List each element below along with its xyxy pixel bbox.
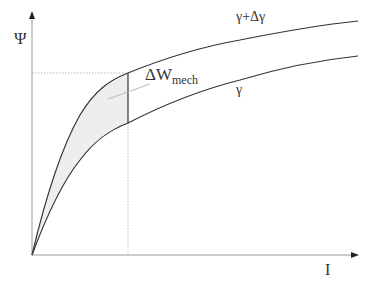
- diagram-svg: [0, 0, 368, 287]
- area-label-subscript: mech: [172, 73, 198, 87]
- area-label: ΔWmech: [145, 66, 198, 86]
- x-axis-arrow-icon: [351, 252, 359, 258]
- x-axis-label: I: [325, 262, 330, 278]
- y-axis-arrow-icon: [29, 11, 35, 19]
- curve-lower-label: γ: [236, 83, 242, 97]
- y-axis-label: Ψ: [14, 30, 27, 47]
- shaded-energy-area: [32, 73, 128, 255]
- curve-upper-label: γ+Δγ: [236, 10, 265, 24]
- area-label-main: ΔW: [145, 65, 172, 84]
- diagram-canvas: Ψ I γ+Δγ γ ΔWmech: [0, 0, 368, 287]
